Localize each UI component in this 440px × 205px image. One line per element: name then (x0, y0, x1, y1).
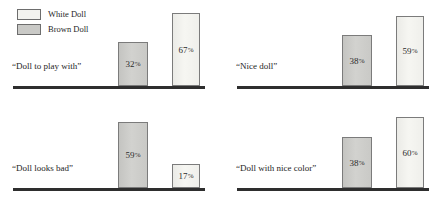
bar-white-doll: 60% (396, 117, 424, 188)
panel-baseline (13, 86, 205, 89)
bar-value-label: 17% (178, 171, 193, 181)
panel-baseline (237, 86, 429, 89)
bar-brown-doll: 32% (118, 42, 148, 86)
bar-white-doll: 17% (172, 164, 200, 188)
chart-panel: “Doll with nice color” 38% 60% (232, 102, 437, 197)
panel-bars: 32% 67% (8, 0, 213, 86)
bar-value-label: 67% (178, 45, 193, 55)
bar-white-doll: 67% (172, 13, 200, 86)
chart-panel: “Nice doll” 38% 59% (232, 0, 437, 95)
panel-bars: 59% 17% (8, 102, 213, 188)
bar-brown-doll: 59% (118, 122, 148, 188)
bar-value-label: 60% (402, 148, 417, 158)
bar-value-label: 38% (349, 56, 364, 66)
panel-baseline (13, 188, 205, 191)
chart-panel: “Doll to play with” 32% 67% (8, 0, 213, 95)
bar-value-label: 59% (402, 46, 417, 56)
bar-white-doll: 59% (396, 16, 424, 86)
bar-value-label: 38% (349, 158, 364, 168)
chart-panel: “Doll looks bad” 59% 17% (8, 102, 213, 197)
bar-brown-doll: 38% (342, 137, 372, 188)
bar-value-label: 59% (125, 150, 140, 160)
bar-value-label: 32% (125, 59, 140, 69)
panel-bars: 38% 59% (232, 0, 437, 86)
panel-bars: 38% 60% (232, 102, 437, 188)
panel-baseline (237, 188, 429, 191)
bar-brown-doll: 38% (342, 35, 372, 86)
